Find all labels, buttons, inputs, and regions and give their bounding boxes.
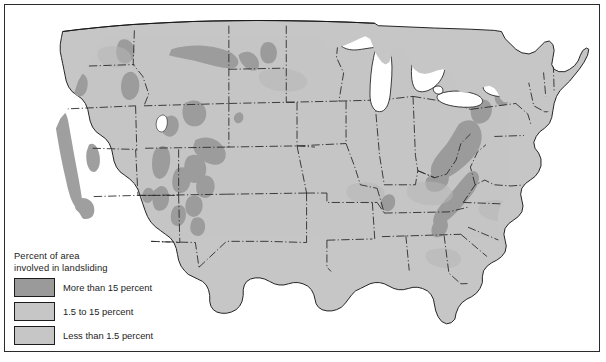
legend-label-medium: 1.5 to 15 percent (63, 306, 133, 317)
legend-title-line-1: Percent of area (14, 250, 214, 262)
lake-okeechobee (495, 303, 506, 314)
legend-label-low: Less than 1.5 percent (63, 330, 153, 341)
legend-swatch-medium (14, 302, 55, 321)
region-missouri-river-nd (260, 42, 277, 64)
legend-item-low[interactable]: Less than 1.5 percent (14, 326, 214, 345)
lake-st-clair (433, 86, 443, 94)
region-california-transverse (75, 198, 94, 219)
region-new-mexico-south (190, 217, 205, 236)
legend-swatch-high (14, 278, 55, 297)
legend-title-line-2: involved in landsliding (14, 262, 214, 274)
legend-item-high[interactable]: More than 15 percent (14, 278, 214, 297)
map-legend: Percent of area involved in landsliding … (14, 250, 214, 345)
legend-swatch-low (14, 326, 55, 345)
region-california-coast-ranges (56, 111, 82, 209)
figure-container: Percent of area involved in landsliding … (0, 0, 606, 362)
legend-label-high: More than 15 percent (63, 282, 152, 293)
legend-title: Percent of area involved in landsliding (14, 250, 214, 273)
legend-item-medium[interactable]: 1.5 to 15 percent (14, 302, 214, 321)
